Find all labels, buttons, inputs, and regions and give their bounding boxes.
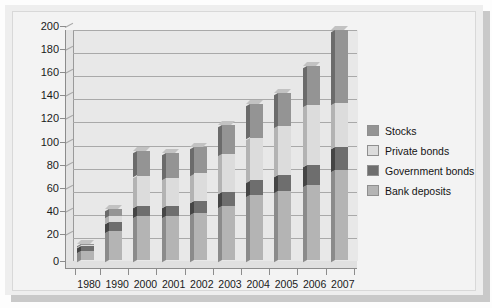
legend-item-label: Private bonds (385, 145, 449, 157)
bar-segment-side (246, 104, 250, 140)
bar-segment[interactable] (335, 103, 348, 147)
legend-swatch (367, 185, 379, 196)
bar-segment[interactable] (194, 147, 207, 174)
bar-segment[interactable] (278, 93, 291, 126)
x-axis-tick (75, 268, 76, 275)
bar-segment[interactable] (109, 209, 122, 216)
bar-segment-side (133, 216, 137, 262)
bar-segment[interactable] (166, 153, 179, 178)
x-axis-tick-label: 2002 (189, 278, 215, 290)
bar-segment[interactable] (222, 125, 235, 154)
y-axis-tick (60, 165, 66, 166)
bar-segment-side (162, 153, 166, 181)
y-axis-tick (60, 95, 66, 96)
legend-item-label: Stocks (385, 125, 417, 137)
chart-plate-shadow-bottom (11, 295, 489, 302)
x-axis-tick (213, 268, 214, 275)
legend-item[interactable]: Stocks (367, 122, 471, 139)
bar-segment-side (303, 165, 307, 187)
bar-segment[interactable] (335, 147, 348, 170)
bar-segment[interactable] (307, 66, 320, 105)
bar-segment[interactable] (81, 251, 94, 260)
bar-segment[interactable] (250, 180, 263, 195)
bar-segment-side (303, 66, 307, 107)
legend-item[interactable]: Government bonds (367, 162, 471, 179)
bar-segment[interactable] (250, 138, 263, 181)
x-axis-tick (100, 268, 101, 275)
bar-segment-side (218, 125, 222, 156)
bar-segment[interactable] (278, 191, 291, 260)
bar-segment[interactable] (307, 185, 320, 260)
x-axis-line (65, 268, 357, 269)
bar-segment-side (162, 216, 166, 262)
bar-segment-side (190, 173, 194, 203)
bar-segment[interactable] (137, 206, 150, 216)
bar-segment-side (105, 231, 109, 262)
bar-segment[interactable] (307, 105, 320, 165)
x-axis-tick-label: 2004 (245, 278, 271, 290)
legend-item[interactable]: Private bonds (367, 142, 471, 159)
bar-segment[interactable] (250, 195, 263, 260)
bar-segment[interactable] (81, 246, 94, 251)
x-axis-tick-label: 2006 (302, 278, 328, 290)
bar-segment-side (218, 154, 222, 194)
bar-segment[interactable] (137, 176, 150, 206)
x-axis-tick-label: 2001 (161, 278, 187, 290)
chart-legend: StocksPrivate bondsGovernment bondsBank … (367, 122, 471, 202)
bar-segment[interactable] (194, 201, 207, 213)
bar-segment[interactable] (166, 206, 179, 216)
bar-segment-side (190, 213, 194, 262)
bar-segment-side (218, 206, 222, 262)
gridline-riser (65, 23, 73, 28)
legend-swatch (367, 165, 379, 176)
bar-segment[interactable] (166, 178, 179, 206)
bar-segment[interactable] (109, 231, 122, 260)
bar-segment-side (274, 175, 278, 193)
bar-segment[interactable] (137, 216, 150, 260)
gridline (73, 30, 357, 31)
bar-segment-side (218, 192, 222, 208)
y-axis-tick (60, 211, 66, 212)
bar-segment[interactable] (222, 154, 235, 192)
bar-segment[interactable] (335, 170, 348, 260)
y-axis-tick-label: 120 (41, 113, 59, 123)
y-axis-tick (60, 49, 66, 50)
bar-segment[interactable] (222, 192, 235, 206)
x-axis-tick-label: 1990 (104, 278, 130, 290)
bar-segment[interactable] (194, 173, 207, 201)
bar-segment-side (246, 180, 250, 197)
bar-segment[interactable] (250, 104, 263, 137)
legend-item-label: Government bonds (385, 165, 474, 177)
chart-screenshot: 020406080100120140160180200 198019902000… (0, 0, 492, 308)
bar-segment[interactable] (109, 216, 122, 222)
bar-segment-side (331, 147, 335, 172)
y-axis-tick-label: 60 (47, 183, 59, 193)
bar-segment-side (162, 178, 166, 208)
y-axis-tick (60, 142, 66, 143)
legend-item[interactable]: Bank deposits (367, 182, 471, 199)
bar-segment[interactable] (81, 244, 94, 245)
x-axis-tick (354, 268, 355, 275)
x-axis-tick (241, 268, 242, 275)
legend-swatch (367, 125, 379, 136)
bar-segment-side (303, 185, 307, 262)
chart-card[interactable]: 020406080100120140160180200 198019902000… (12, 11, 476, 291)
bar-segment[interactable] (278, 126, 291, 175)
bar-segment[interactable] (278, 175, 291, 191)
x-axis-tick (156, 268, 157, 275)
y-axis-tick-label: 40 (47, 206, 59, 216)
y-axis-tick-label: 140 (41, 90, 59, 100)
bar-segment[interactable] (335, 30, 348, 103)
bar-segment[interactable] (194, 213, 207, 260)
bar-segment[interactable] (109, 222, 122, 231)
bar-segment[interactable] (307, 165, 320, 185)
bar-segment[interactable] (222, 206, 235, 260)
bar-segment[interactable] (137, 151, 150, 175)
y-axis-tick-label: 100 (41, 137, 59, 147)
plot-area: 1980199020002001200220032004200520062007 (65, 30, 357, 268)
y-axis-tick-label: 200 (41, 21, 59, 31)
bar-segment[interactable] (81, 245, 94, 246)
bar-segment[interactable] (166, 216, 179, 260)
y-axis-tick (60, 188, 66, 189)
y-axis-tick-label: 160 (41, 67, 59, 77)
